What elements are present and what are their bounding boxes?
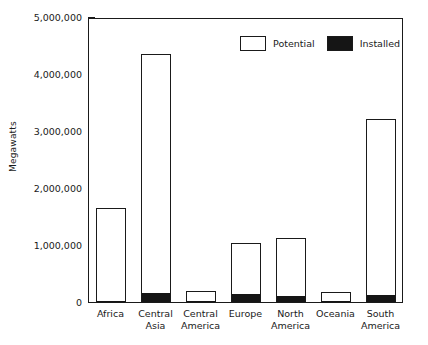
y-tick-label: 0: [2, 298, 82, 308]
bar-installed: [321, 301, 351, 303]
x-tick-label: Europe: [223, 308, 268, 320]
y-tick-label: 2,000,000: [2, 184, 82, 194]
y-tick-label: 5,000,000: [2, 13, 82, 23]
x-tick-label: NorthAmerica: [268, 308, 313, 331]
x-tick-label: CentralAsia: [133, 308, 178, 331]
legend-swatch-hollow: [240, 36, 266, 51]
bar-group: [96, 18, 126, 303]
legend-swatch-filled: [327, 36, 353, 51]
bar-installed: [186, 301, 216, 303]
bar-potential: [96, 208, 126, 303]
bar-group: [141, 18, 171, 303]
legend-entry: Potential: [240, 36, 315, 51]
bar-installed: [231, 294, 261, 303]
x-tick-label: Oceania: [313, 308, 358, 320]
bar-group: [186, 18, 216, 303]
y-tick-label: 4,000,000: [2, 70, 82, 80]
bar-installed: [276, 296, 306, 303]
x-tick-label: SouthAmerica: [358, 308, 403, 331]
bars-layer: [88, 18, 403, 303]
x-tick-label: Africa: [88, 308, 133, 320]
bar-installed: [366, 295, 396, 303]
bar-installed: [141, 293, 171, 303]
bar-potential: [276, 238, 306, 303]
y-tick-label: 1,000,000: [2, 241, 82, 251]
bar-group: [231, 18, 261, 303]
legend-label: Potential: [273, 38, 315, 49]
bar-potential: [141, 54, 171, 303]
bar-potential: [366, 119, 396, 303]
legend-entry: Installed: [327, 36, 400, 51]
bar-group: [276, 18, 306, 303]
bar-group: [321, 18, 351, 303]
bar-installed: [96, 301, 126, 303]
x-tick-label: CentralAmerica: [178, 308, 223, 331]
chart-legend: PotentialInstalled: [240, 36, 400, 51]
legend-label: Installed: [360, 38, 400, 49]
y-tick-label: 3,000,000: [2, 127, 82, 137]
bar-chart: Megawatts 01,000,0002,000,0003,000,0004,…: [0, 0, 428, 345]
bar-group: [366, 18, 396, 303]
